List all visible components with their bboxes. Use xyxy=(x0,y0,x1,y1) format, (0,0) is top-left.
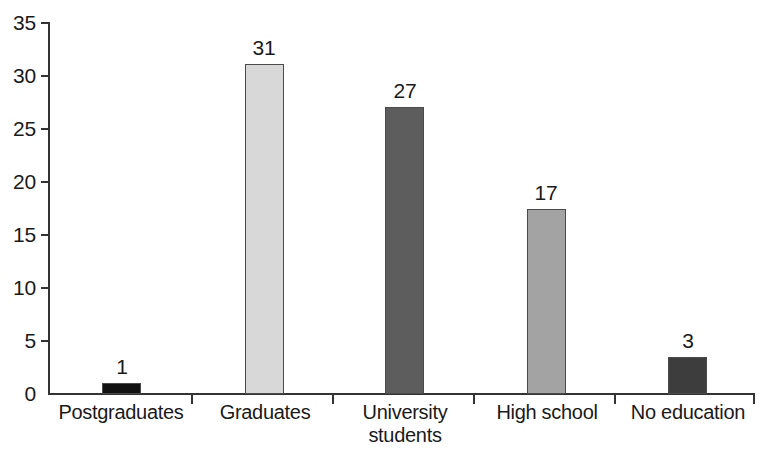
y-tick-mark-35 xyxy=(41,22,50,24)
bar-university-students[interactable] xyxy=(385,107,424,394)
x-category-label-university-students: University students xyxy=(325,401,485,447)
bar-graduates[interactable] xyxy=(245,64,284,394)
y-tick-label-25: 25 xyxy=(0,118,36,139)
bar-value-university-students: 27 xyxy=(375,80,435,101)
bar-value-no-education: 3 xyxy=(658,330,718,351)
bar-no-education[interactable] xyxy=(668,357,707,394)
y-tick-label-0: 0 xyxy=(0,383,36,404)
y-tick-label-5: 5 xyxy=(0,330,36,351)
x-category-label-no-education: No education xyxy=(608,401,768,424)
y-tick-label-15: 15 xyxy=(0,224,36,245)
x-category-label-line1: Graduates xyxy=(185,401,345,424)
x-category-label-line1: High school xyxy=(467,401,627,424)
y-tick-label-20: 20 xyxy=(0,171,36,192)
bar-postgraduates[interactable] xyxy=(102,383,141,394)
y-tick-mark-25 xyxy=(41,128,50,130)
x-category-label-line1: University xyxy=(325,401,485,424)
y-tick-label-35: 35 xyxy=(0,12,36,33)
y-tick-mark-20 xyxy=(41,181,50,183)
bar-chart: 35 30 25 20 15 10 5 0 1 Postgraduates 31… xyxy=(0,0,768,466)
x-category-label-graduates: Graduates xyxy=(185,401,345,424)
bar-value-postgraduates: 1 xyxy=(92,356,152,377)
y-tick-mark-10 xyxy=(41,287,50,289)
x-category-label-high-school: High school xyxy=(467,401,627,424)
y-tick-mark-30 xyxy=(41,75,50,77)
x-category-label-postgraduates: Postgraduates xyxy=(41,401,201,424)
y-tick-mark-15 xyxy=(41,234,50,236)
y-tick-label-30: 30 xyxy=(0,65,36,86)
y-tick-mark-5 xyxy=(41,340,50,342)
bar-value-high-school: 17 xyxy=(516,182,576,203)
bar-value-graduates: 31 xyxy=(234,37,294,58)
x-category-label-line1: Postgraduates xyxy=(41,401,201,424)
bar-high-school[interactable] xyxy=(527,209,566,394)
x-category-label-line2: students xyxy=(325,424,485,447)
y-tick-label-10: 10 xyxy=(0,277,36,298)
x-category-label-line1: No education xyxy=(608,401,768,424)
